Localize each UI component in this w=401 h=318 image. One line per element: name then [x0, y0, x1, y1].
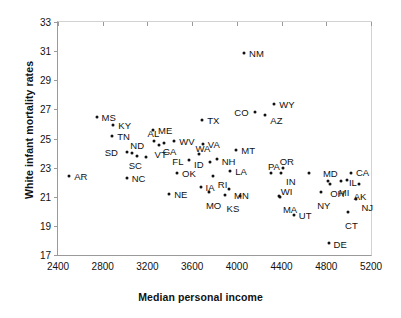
- data-point: [278, 196, 281, 199]
- data-point: [280, 172, 283, 175]
- data-point-label: NJ: [361, 203, 373, 213]
- data-point-label: AR: [74, 172, 87, 182]
- data-point: [254, 111, 257, 114]
- data-point-label: TX: [207, 116, 219, 126]
- data-point: [223, 194, 226, 197]
- data-point: [229, 170, 232, 173]
- data-point-label: CO: [234, 108, 248, 118]
- data-point-label: OR: [280, 157, 294, 167]
- data-point: [211, 175, 214, 178]
- y-axis-tick-mark: [54, 226, 58, 227]
- data-point: [112, 124, 115, 127]
- data-point: [168, 192, 171, 195]
- x-axis-tick-label: 3600: [181, 261, 203, 272]
- data-point: [162, 141, 165, 144]
- data-point-label: MN: [234, 191, 249, 201]
- data-point-label: MD: [323, 169, 338, 179]
- data-point-label: MI: [339, 188, 350, 198]
- data-point-label: RI: [218, 180, 228, 190]
- data-point-label: GA: [163, 147, 177, 157]
- data-point: [281, 167, 284, 170]
- data-point: [235, 149, 238, 152]
- data-point: [355, 197, 358, 200]
- data-point: [307, 171, 310, 174]
- y-axis-tick-mark: [54, 139, 58, 140]
- y-axis-tick-mark: [54, 255, 58, 256]
- data-point: [201, 118, 204, 121]
- data-point: [207, 190, 210, 193]
- data-point: [131, 152, 134, 155]
- data-point: [152, 129, 155, 132]
- x-axis-tick-mark: [103, 22, 104, 26]
- data-point-label: NY: [317, 201, 330, 211]
- data-point-label: TN: [117, 132, 130, 142]
- x-axis-tick-mark: [147, 22, 148, 26]
- data-point-label: SC: [129, 161, 142, 171]
- data-point: [215, 157, 218, 160]
- data-point: [95, 115, 98, 118]
- data-point: [135, 154, 138, 157]
- x-axis-tick-label: 4000: [226, 261, 248, 272]
- data-point-label: ID: [194, 160, 204, 170]
- x-axis-tick-mark: [371, 22, 372, 26]
- data-point-label: PA: [268, 162, 280, 172]
- data-point: [173, 139, 176, 142]
- x-axis-tick-mark: [326, 22, 327, 26]
- data-point-label: CA: [356, 168, 369, 178]
- data-point: [347, 211, 350, 214]
- y-axis-tick-mark: [54, 109, 58, 110]
- data-point: [349, 171, 352, 174]
- data-point: [292, 213, 295, 216]
- y-axis-tick-mark: [54, 80, 58, 81]
- data-point: [357, 182, 360, 185]
- data-point-label: NE: [174, 190, 187, 200]
- x-axis-tick-label: 2800: [92, 261, 114, 272]
- data-point-label: KS: [227, 204, 240, 214]
- data-point-label: WI: [281, 187, 293, 197]
- data-point-label: NC: [132, 174, 146, 184]
- data-point: [209, 160, 212, 163]
- data-point: [264, 114, 267, 117]
- data-point-label: SD: [105, 148, 118, 158]
- data-point: [329, 182, 332, 185]
- data-point: [327, 242, 330, 245]
- data-point: [144, 155, 147, 158]
- data-point: [125, 150, 128, 153]
- data-point-label: MO: [206, 201, 221, 211]
- data-point: [176, 171, 179, 174]
- data-point: [273, 102, 276, 105]
- data-point-label: FL: [172, 157, 183, 167]
- data-point: [157, 144, 160, 147]
- data-point-label: AZ: [270, 116, 282, 126]
- x-axis-tick-mark: [237, 22, 238, 26]
- x-axis-tick-label: 4800: [315, 261, 337, 272]
- data-point-label: KY: [118, 121, 131, 131]
- data-point-label: ND: [130, 141, 144, 151]
- data-point-label: DE: [334, 240, 347, 250]
- data-point: [125, 176, 128, 179]
- x-axis-tick-label: 4400: [270, 261, 292, 272]
- data-point-label: MT: [241, 146, 255, 156]
- data-point-label: LA: [235, 167, 247, 177]
- x-axis-tick-label: 2400: [47, 261, 69, 272]
- data-point-label: CT: [345, 221, 358, 231]
- data-point: [201, 142, 204, 145]
- data-point: [269, 172, 272, 175]
- data-point: [111, 134, 114, 137]
- data-point: [188, 159, 191, 162]
- data-point-label: UT: [299, 211, 312, 221]
- data-point: [238, 195, 241, 198]
- data-point-label: NM: [249, 49, 264, 59]
- data-point: [243, 52, 246, 55]
- y-axis-tick-mark: [54, 168, 58, 169]
- x-axis-tick-mark: [192, 22, 193, 26]
- x-axis-tick-label: 3200: [136, 261, 158, 272]
- x-axis-title: Median personal income: [0, 291, 401, 303]
- x-axis-tick-mark: [58, 22, 59, 26]
- scatter-chart-figure: White infant mortality rates 17192123252…: [0, 0, 401, 318]
- data-point-label: WY: [279, 100, 294, 110]
- data-point-label: MS: [102, 113, 116, 123]
- plot-area: 1719212325272931332400280032003600400044…: [57, 21, 372, 256]
- data-point: [228, 188, 231, 191]
- x-axis-tick-mark: [282, 22, 283, 26]
